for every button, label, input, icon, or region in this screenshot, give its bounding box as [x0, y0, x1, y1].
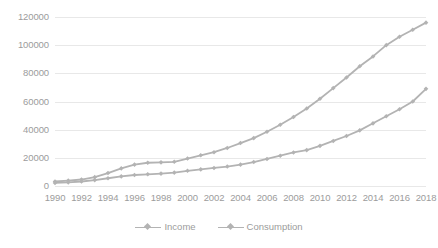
series-consumption: [53, 87, 429, 186]
data-point-marker: [119, 174, 124, 179]
series-income: [53, 20, 429, 183]
data-point-marker: [172, 170, 177, 175]
data-point-marker: [225, 146, 230, 151]
chart-legend: IncomeConsumption: [0, 222, 438, 232]
legend-marker-icon: [135, 223, 161, 232]
series-line: [55, 89, 426, 183]
x-tick-label: 2018: [410, 193, 438, 203]
data-point-marker: [132, 162, 137, 167]
y-tick-label: 120000: [0, 12, 49, 21]
data-point-marker: [185, 156, 190, 161]
series-line: [55, 23, 426, 182]
data-point-marker: [318, 144, 323, 149]
data-point-marker: [225, 164, 230, 169]
data-point-marker: [278, 153, 283, 158]
data-point-marker: [145, 160, 150, 165]
plot-area: [55, 17, 426, 186]
data-point-marker: [265, 157, 270, 162]
data-point-marker: [212, 150, 217, 155]
gridline: [55, 186, 426, 187]
data-point-marker: [106, 171, 111, 176]
data-point-marker: [92, 178, 97, 183]
line-chart: 020000400006000080000100000120000 199019…: [0, 0, 438, 248]
y-tick-label: 80000: [0, 68, 49, 77]
data-point-marker: [185, 168, 190, 173]
data-point-marker: [159, 171, 164, 176]
data-point-marker: [119, 166, 124, 171]
data-point-marker: [132, 173, 137, 178]
data-point-marker: [238, 162, 243, 167]
y-tick-label: 20000: [0, 153, 49, 162]
series-lines: [55, 17, 426, 186]
y-tick-label: 0: [0, 181, 49, 190]
y-tick-label: 60000: [0, 97, 49, 106]
data-point-marker: [304, 148, 309, 153]
data-point-marker: [238, 141, 243, 146]
data-point-marker: [198, 153, 203, 158]
legend-marker-icon: [218, 223, 244, 232]
data-point-marker: [172, 159, 177, 164]
data-point-marker: [198, 167, 203, 172]
legend-label: Income: [164, 222, 195, 232]
data-point-marker: [291, 150, 296, 155]
legend-label: Consumption: [247, 222, 303, 232]
y-tick-label: 100000: [0, 40, 49, 49]
data-point-marker: [106, 176, 111, 181]
legend-item-income[interactable]: Income: [135, 222, 195, 232]
data-point-marker: [212, 166, 217, 171]
data-point-marker: [251, 160, 256, 165]
data-point-marker: [145, 172, 150, 177]
data-point-marker: [159, 160, 164, 165]
legend-item-consumption[interactable]: Consumption: [218, 222, 303, 232]
data-point-marker: [331, 139, 336, 144]
y-tick-label: 40000: [0, 125, 49, 134]
